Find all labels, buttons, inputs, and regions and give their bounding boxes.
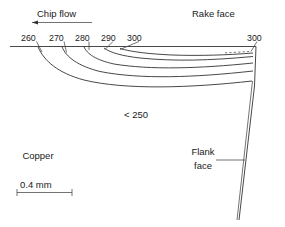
flank-face-label-line1: Flank [191,146,214,157]
flank-face-label-line2: face [194,160,212,171]
tool-inner-edge [237,81,253,220]
contour-leader-lines [37,42,258,53]
contour-label-280: 280 [75,33,90,43]
contour-label-300-right: 300 [247,33,262,43]
diagram-canvas: Chip flow Rake face 260 270 280 290 300 … [0,0,285,227]
contour-label-290: 290 [101,33,116,43]
scale-bar-label: 0.4 mm [20,179,52,190]
contour-300 [120,49,253,56]
contour-label-260: 260 [21,33,36,43]
temperature-contours [38,47,253,87]
contour-label-300-left: 300 [127,33,142,43]
material-label: Copper [22,150,53,161]
rake-face-label: Rake face [192,8,235,19]
chip-flow-label: Chip flow [37,8,76,19]
machining-temperature-diagram: Chip flow Rake face 260 270 280 290 300 … [0,0,285,227]
flank-face-edge [239,86,255,220]
rake-face-edge [255,47,257,87]
scale-bar [17,189,72,196]
contour-270 [62,47,253,77]
contour-label-270: 270 [49,33,64,43]
contour-280 [84,47,253,68]
chip-flow-arrow [32,20,92,24]
core-temperature-label: < 250 [124,109,148,120]
contour-300-dashed-segment [225,51,250,52]
